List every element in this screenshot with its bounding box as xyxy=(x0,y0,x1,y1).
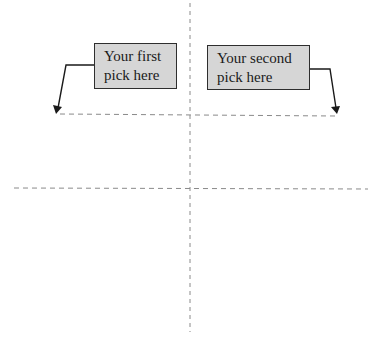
second-pick-line2: pick here xyxy=(217,68,309,87)
second-arrowhead-icon xyxy=(331,106,340,114)
guide-lines xyxy=(0,0,381,339)
upper-horizontal-dashed-line xyxy=(60,114,335,116)
first-pick-line2: pick here xyxy=(104,66,176,85)
first-arrowhead-icon xyxy=(53,105,62,114)
lower-horizontal-dashed-line xyxy=(14,188,368,189)
second-pick-callout: Your second pick here xyxy=(207,45,310,90)
first-pick-callout: Your first pick here xyxy=(94,43,177,89)
diagram-canvas: Your first pick here Your second pick he… xyxy=(0,0,381,339)
first-pick-arrow xyxy=(58,65,94,108)
second-pick-arrow xyxy=(310,69,336,108)
first-pick-line1: Your first xyxy=(104,47,176,66)
second-pick-line1: Your second xyxy=(217,49,309,68)
